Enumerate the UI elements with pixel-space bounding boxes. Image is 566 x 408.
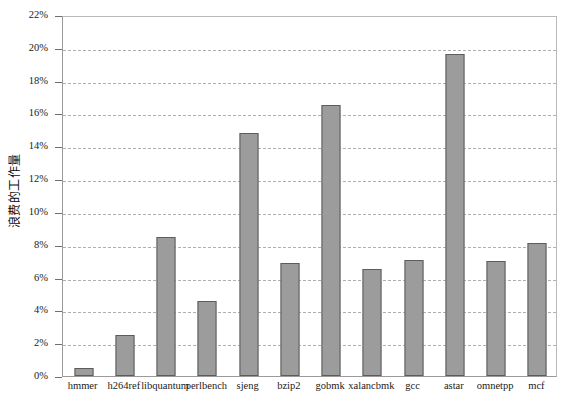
bar-slot [352,17,393,376]
y-axis-tick-label: 22% [29,9,48,20]
y-axis-tick-label: 20% [29,42,48,53]
x-axis-label-astar: astar [444,380,464,391]
x-axis-label-mcf: mcf [528,380,544,391]
x-axis-labels: hmmerh264reflibquantumperlbenchsjengbzip… [62,380,557,406]
x-axis-label-libquantum: libquantum [141,380,189,391]
x-axis-label-omnetpp: omnetpp [477,380,514,391]
x-axis-label-sjeng: sjeng [237,380,259,391]
y-axis-tick-label: 16% [29,107,48,118]
y-axis-tick-label: 6% [34,272,48,283]
bar-slot [517,17,558,376]
bar-slot [228,17,269,376]
y-axis-tick-mark [55,82,62,83]
y-axis-tick-mark [55,213,62,214]
y-axis-tick-mark [55,180,62,181]
bar-slot [269,17,310,376]
bar-slot [311,17,352,376]
plot-area [62,16,557,377]
y-axis-tick-label: 2% [34,337,48,348]
bar-slot [104,17,145,376]
bar-perlbench [198,301,217,376]
y-axis-tick-label: 4% [34,304,48,315]
y-axis-tick-mark [55,246,62,247]
bar-omnetpp [487,261,506,376]
y-axis-tick-mark [55,344,62,345]
bar-bzip2 [280,263,299,376]
y-axis-tick-mark [55,16,62,17]
bar-astar [445,54,464,376]
y-axis-tick-label: 14% [29,140,48,151]
bar-hmmer [74,368,93,376]
bar-slot [476,17,517,376]
x-axis-label-bzip2: bzip2 [277,380,300,391]
x-axis-label-hmmer: hmmer [68,380,98,391]
bar-mcf [528,243,547,376]
bar-h264ref [115,335,134,376]
y-axis-tick-mark [55,279,62,280]
x-axis-label-gobmk: gobmk [316,380,345,391]
bar-chart: 浪费的工作量 22%20%18%16%14%12%10%8%6%4%2%0% h… [0,0,566,408]
y-axis-tick-label: 12% [29,173,48,184]
y-axis-tick-label: 0% [34,370,48,381]
bar-sjeng [239,133,258,376]
y-axis-tick-mark [55,49,62,50]
y-axis-tick-mark [55,311,62,312]
bar-gcc [404,260,423,377]
bar-slot [146,17,187,376]
bar-slot [434,17,475,376]
bar-xalancbmk [363,269,382,376]
y-axis-ticks: 22%20%18%16%14%12%10%8%6%4%2%0% [0,16,62,377]
bars-layer [63,17,556,376]
x-axis-label-xalancbmk: xalancbmk [348,380,394,391]
y-axis-tick-label: 18% [29,75,48,86]
bar-gobmk [322,105,341,376]
bar-slot [63,17,104,376]
x-axis-label-gcc: gcc [405,380,420,391]
x-axis-label-perlbench: perlbench [186,380,227,391]
y-axis-tick-mark [55,147,62,148]
y-axis-tick-label: 8% [34,239,48,250]
y-axis-tick-mark [55,377,62,378]
y-axis-tick-label: 10% [29,206,48,217]
bar-slot [393,17,434,376]
x-axis-label-h264ref: h264ref [108,380,141,391]
bar-slot [187,17,228,376]
y-axis-tick-mark [55,114,62,115]
bar-libquantum [157,237,176,376]
